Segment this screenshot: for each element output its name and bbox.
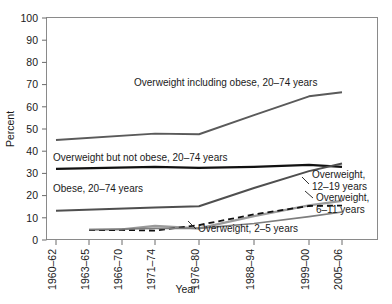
y-tick-label: 90 [26, 34, 38, 46]
leader-12-19-icon [302, 177, 309, 184]
x-tick-label: 1999–00 [299, 249, 311, 290]
y-tick-label: 80 [26, 56, 38, 68]
leader-6-11-icon [305, 191, 313, 198]
ann-overweight-not-obese: Overweight but not obese, 20–74 years [53, 152, 228, 163]
y-tick-label: 10 [26, 212, 38, 224]
y-tick-label: 100 [20, 12, 38, 24]
x-tick-label: 1988–94 [244, 249, 256, 290]
y-tick-label: 30 [26, 167, 38, 179]
ann-overweight-including-obese: Overweight including obese, 20–74 years [134, 77, 317, 88]
series-line-2 [56, 165, 342, 169]
y-tick-label: 0 [32, 234, 38, 246]
ann-overweight-6-11-line1: Overweight, [316, 192, 369, 203]
ann-overweight-12-19-line2: 12–19 years [312, 181, 367, 192]
y-axis-tick-labels: 100 90 80 70 60 50 40 30 20 10 0 [20, 12, 38, 246]
x-tick-label: 2005–06 [332, 249, 344, 290]
line-chart: 100 90 80 70 60 50 40 30 20 10 0 Percent [0, 0, 392, 304]
y-tick-label: 60 [26, 101, 38, 113]
ann-overweight-2-5: Overweight, 2–5 years [198, 223, 298, 234]
y-axis-title: Percent [4, 111, 16, 147]
ann-overweight-12-19-line1: Overweight, [312, 169, 365, 180]
chart-container: 100 90 80 70 60 50 40 30 20 10 0 Percent [0, 0, 392, 304]
x-tick-label: 1960–62 [46, 249, 58, 290]
y-tick-label: 20 [26, 189, 38, 201]
y-tick-label: 70 [26, 78, 38, 90]
series-line-1 [56, 92, 342, 140]
x-tick-label: 1971–74 [145, 249, 157, 290]
x-tick-label: 1966–70 [112, 249, 124, 290]
x-axis-ticks [56, 240, 342, 245]
ann-overweight-6-11-line2: 6–11 years [316, 204, 365, 215]
x-tick-label: 1963–65 [79, 249, 91, 290]
y-tick-label: 40 [26, 145, 38, 157]
annotation-layer: Overweight including obese, 20–74 yearsO… [53, 77, 369, 234]
y-tick-label: 50 [26, 123, 38, 135]
y-axis-ticks [42, 18, 47, 240]
ann-obese: Obese, 20–74 years [53, 183, 143, 194]
x-axis-title: Year [175, 283, 197, 295]
